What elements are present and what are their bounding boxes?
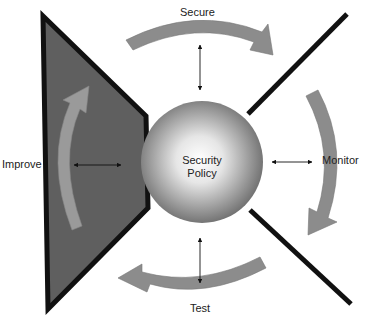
secure-label: Secure [180, 6, 215, 18]
upper-right-divider [248, 14, 347, 114]
center-label-line2: Policy [162, 167, 242, 180]
lower-right-divider [250, 210, 351, 304]
secure-arrow [126, 20, 273, 55]
test-label: Test [190, 302, 210, 314]
center-label-line1: Security [162, 154, 242, 167]
improve-label: Improve [2, 158, 42, 170]
center-label: Security Policy [162, 154, 242, 180]
test-arrow [118, 257, 266, 292]
monitor-label: Monitor [322, 154, 359, 166]
